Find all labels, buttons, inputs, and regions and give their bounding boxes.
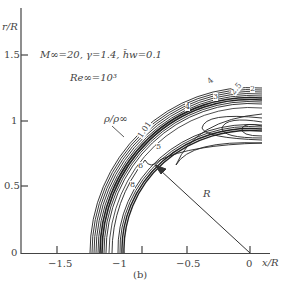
flow-conditions-annotation: M∞=20, γ=1.4, h̄w=0.1 [40,50,162,60]
y-tick-1: 1 [11,116,17,126]
y-axis-label: r/R [2,22,18,32]
radius-arrow [155,165,250,253]
reynolds-annotation: Re∞=10³ [70,73,117,83]
contour-label-2: 2 [250,85,255,93]
x-tick-minus-1-5: −1.5 [48,259,72,269]
x-tick-minus-0-5: −0.5 [176,259,200,269]
variable-leader-line [112,126,124,137]
contour-label-4: 4 [185,103,190,111]
plot-canvas [0,0,284,287]
y-tick-0-5: 0.5 [4,181,20,191]
panel-label: (b) [133,270,147,280]
radius-label: R [203,189,211,199]
contour-figure: r/R x/R 1.5 1 0.5 0 −1.5 −1 −0.5 0 M∞=20… [0,0,284,287]
x-tick-minus-1: −1 [112,259,127,269]
y-tick-1-5: 1.5 [4,50,20,60]
contour-label-3: 3 [213,93,218,101]
density-ratio-label: ρ/ρ∞ [104,114,127,124]
contour-label-8: 8 [130,181,135,189]
x-tick-0: 0 [246,259,252,269]
contour-label-5: 5 [156,143,161,151]
x-axis-label: x/R [262,258,279,268]
y-tick-0: 0 [11,248,17,258]
contour-label-6: 6 [138,162,143,170]
